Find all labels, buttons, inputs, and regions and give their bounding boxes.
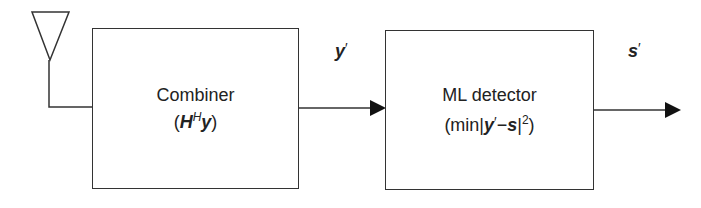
signal-y-prime-label: y′	[335, 40, 348, 62]
ml-detector-block: ML detector (min|y′−s|2)	[385, 30, 594, 190]
signal-s-prime-label: s′	[628, 40, 641, 62]
ml-detector-label: ML detector	[442, 82, 536, 109]
antenna-icon	[32, 12, 69, 60]
arrowhead-icon	[370, 100, 386, 116]
combiner-label: Combiner	[156, 82, 234, 109]
arrowhead-icon	[665, 102, 681, 118]
combiner-block: Combiner (HHy)	[92, 28, 299, 189]
combiner-formula: (HHy)	[174, 109, 218, 136]
antenna-feed-line	[49, 60, 92, 107]
ml-detector-formula: (min|y′−s|2)	[444, 109, 534, 139]
